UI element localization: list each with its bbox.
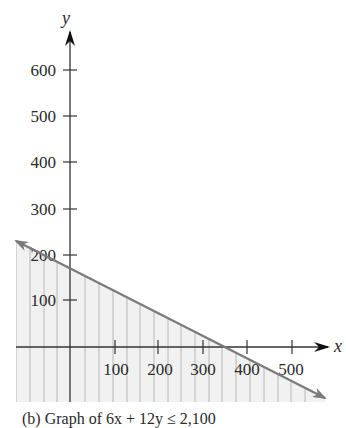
y-axis-label: y: [60, 8, 70, 28]
y-tick-500: 500: [31, 107, 57, 126]
x-tick-100: 100: [103, 360, 129, 379]
figure-caption: (b) Graph of 6x + 12y ≤ 2,100: [22, 410, 216, 428]
y-tick-600: 600: [31, 61, 57, 80]
x-tick-300: 300: [190, 360, 216, 379]
y-tick-400: 400: [31, 153, 57, 172]
y-tick-300: 300: [31, 200, 57, 219]
x-tick-200: 200: [147, 360, 173, 379]
y-tick-100: 100: [31, 291, 57, 310]
x-axis-label: x: [333, 336, 342, 356]
